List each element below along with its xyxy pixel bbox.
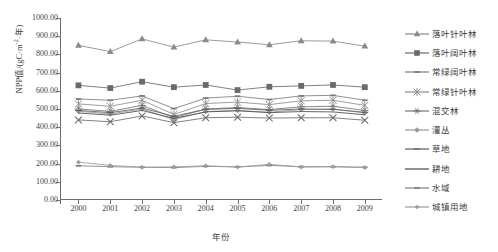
- data-point-marker: [299, 165, 304, 170]
- legend-label: 灌丛: [430, 125, 450, 135]
- legend-item-10[interactable]: 城镇用地: [404, 198, 498, 217]
- series-layer: [60, 18, 382, 200]
- legend-marker-dash-icon: [404, 65, 430, 79]
- data-point-marker: [235, 95, 241, 97]
- chart-legend: 落叶针叶林落叶阔叶林常绿阔叶林常绿针叶林混交林灌丛草地耕地水域城镇用地: [404, 24, 498, 217]
- data-point-marker: [330, 82, 336, 88]
- legend-label: 草地: [430, 144, 450, 154]
- legend-label: 城镇用地: [430, 202, 468, 212]
- plot-area: [60, 18, 382, 200]
- series-城镇用地: [76, 160, 367, 170]
- y-axis-tick-label: 900.00: [8, 32, 58, 40]
- legend-marker-square-icon: [404, 46, 430, 60]
- data-point-marker: [76, 82, 82, 88]
- legend-item-4[interactable]: 常绿针叶林: [404, 82, 498, 101]
- y-axis-tick-mark: [56, 164, 60, 165]
- y-axis-tick-labels: 1000.00900.00800.00700.00600.00500.00400…: [8, 14, 58, 200]
- data-point-marker: [330, 94, 336, 96]
- y-axis-tick-mark: [56, 73, 60, 74]
- data-point-marker: [414, 187, 419, 189]
- y-axis-tick-label: 400.00: [8, 123, 58, 131]
- data-point-marker: [298, 37, 305, 43]
- data-point-marker: [298, 95, 304, 97]
- y-axis-tick-mark: [56, 109, 60, 110]
- y-axis-tick-label: 1000.00: [8, 14, 58, 22]
- y-axis-tick-label: 0.00: [8, 196, 58, 204]
- y-axis-tick-mark: [56, 182, 60, 183]
- data-point-marker: [139, 35, 146, 41]
- data-point-marker: [171, 84, 177, 90]
- data-point-marker: [76, 160, 81, 165]
- legend-label: 水域: [430, 183, 450, 193]
- legend-item-9[interactable]: 水域: [404, 178, 498, 197]
- legend-item-3[interactable]: 常绿阔叶林: [404, 63, 498, 82]
- data-point-marker: [171, 108, 177, 110]
- data-point-marker: [139, 113, 146, 120]
- data-point-marker: [298, 83, 304, 89]
- data-point-marker: [203, 163, 208, 168]
- data-point-marker: [414, 50, 420, 56]
- data-point-marker: [140, 165, 145, 170]
- data-point-marker: [235, 87, 241, 93]
- legend-marker-star4-icon: [404, 85, 430, 99]
- data-point-marker: [414, 71, 419, 73]
- y-axis-tick-mark: [56, 18, 60, 19]
- data-point-marker: [203, 82, 209, 88]
- data-point-marker: [76, 165, 82, 167]
- y-axis-tick-label: 700.00: [8, 69, 58, 77]
- x-axis-title: 年份: [60, 230, 382, 242]
- y-axis-tick-label: 600.00: [8, 87, 58, 95]
- data-point-marker: [235, 165, 240, 170]
- y-axis-tick-mark: [56, 127, 60, 128]
- legend-item-7[interactable]: 草地: [404, 140, 498, 159]
- legend-item-5[interactable]: 混交林: [404, 101, 498, 120]
- data-point-marker: [330, 38, 337, 44]
- data-point-marker: [76, 98, 82, 100]
- series-落叶针叶林: [75, 35, 368, 54]
- y-axis-tick-label: 200.00: [8, 160, 58, 168]
- series-常绿针叶林: [75, 96, 369, 118]
- data-point-marker: [267, 99, 273, 101]
- y-axis-tick-label: 800.00: [8, 50, 58, 58]
- data-point-marker: [362, 99, 368, 101]
- legend-item-1[interactable]: 落叶针叶林: [404, 24, 498, 43]
- legend-marker-diamond-icon: [404, 123, 430, 137]
- data-point-marker: [202, 36, 209, 42]
- data-point-marker: [234, 38, 241, 44]
- legend-item-8[interactable]: 耕地: [404, 159, 498, 178]
- legend-item-2[interactable]: 落叶阔叶林: [404, 43, 498, 62]
- data-point-marker: [75, 42, 82, 48]
- data-point-marker: [107, 85, 113, 91]
- y-axis-tick-mark: [56, 145, 60, 146]
- data-point-marker: [414, 127, 419, 132]
- series-line: [78, 39, 364, 52]
- series-常绿阔叶林: [76, 94, 368, 109]
- legend-label: 常绿阔叶林: [430, 67, 477, 77]
- data-point-marker: [415, 205, 420, 210]
- series-常绿针叶林-x: [75, 113, 368, 127]
- data-point-marker: [172, 164, 177, 169]
- data-point-marker: [362, 165, 367, 170]
- legend-label: 落叶阔叶林: [430, 48, 477, 58]
- legend-item-6[interactable]: 灌丛: [404, 120, 498, 139]
- data-point-marker: [138, 96, 145, 104]
- x-axis-tick-label: 2009: [345, 204, 385, 214]
- legend-label: 落叶针叶林: [430, 29, 477, 39]
- legend-marker-smalldiamond-icon: [404, 200, 430, 214]
- data-point-marker: [362, 84, 368, 90]
- y-axis-tick-mark: [56, 54, 60, 55]
- y-axis-tick-label: 300.00: [8, 141, 58, 149]
- y-axis-tick-mark: [56, 91, 60, 92]
- data-point-marker: [266, 84, 272, 90]
- data-point-marker: [139, 79, 145, 85]
- legend-marker-tick-icon: [404, 142, 430, 156]
- series-line: [78, 82, 364, 90]
- data-point-marker: [203, 97, 209, 99]
- chart-container: NPP值/(gC·m-2·年) 1000.00900.00800.00700.0…: [0, 0, 498, 252]
- legend-label: 常绿针叶林: [430, 87, 477, 97]
- series-line: [78, 116, 364, 123]
- legend-label: 混交林: [430, 106, 459, 116]
- legend-marker-triangle-icon: [404, 27, 430, 41]
- legend-marker-dash2-icon: [404, 181, 430, 195]
- series-落叶阔叶林: [76, 79, 368, 93]
